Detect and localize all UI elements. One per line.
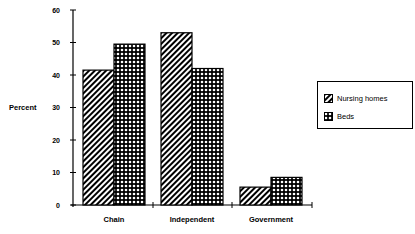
- legend-label: Nursing homes: [337, 94, 387, 103]
- bar-nursing-homes-government: [240, 187, 271, 205]
- legend-item-beds: Beds: [324, 112, 354, 121]
- bar-beds-chain: [114, 44, 145, 205]
- bar-beds-government: [271, 177, 302, 205]
- diagonal-hatch-icon: [324, 94, 333, 103]
- y-tick-label: 50: [52, 39, 60, 46]
- legend: Nursing homes Beds: [317, 81, 413, 129]
- x-category-label: Independent: [170, 215, 215, 224]
- y-tick-label: 30: [52, 104, 60, 111]
- bar-nursing-homes-chain: [83, 70, 114, 205]
- x-category-label: Government: [249, 215, 294, 224]
- bars: [83, 33, 302, 205]
- y-tick-label: 20: [52, 137, 60, 144]
- y-tick-label: 40: [52, 72, 60, 79]
- y-tick-label: 60: [52, 7, 60, 14]
- legend-label: Beds: [337, 112, 354, 121]
- bar-nursing-homes-independent: [161, 33, 192, 205]
- y-tick-label: 0: [56, 202, 60, 209]
- y-axis: 0102030405060: [52, 7, 76, 209]
- legend-item-nursing-homes: Nursing homes: [324, 94, 387, 103]
- bar-beds-independent: [192, 69, 223, 206]
- x-category-label: Chain: [104, 215, 125, 224]
- y-axis-title: Percent: [9, 103, 37, 112]
- y-tick-label: 10: [52, 169, 60, 176]
- crosshatch-icon: [324, 112, 333, 121]
